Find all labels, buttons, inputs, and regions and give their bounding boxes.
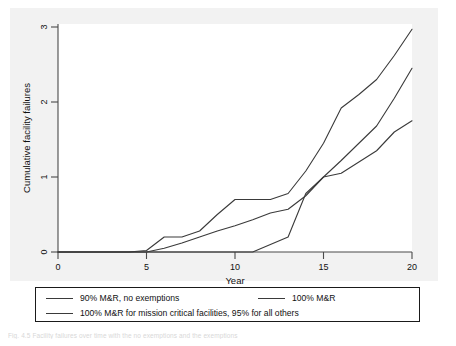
legend-row-2: 100% M&R for mission critical facilities… <box>36 305 419 321</box>
x-tick-label-15: 15 <box>318 262 328 272</box>
y-tick-label-3: 3 <box>39 24 49 29</box>
line-chart: 0 1 2 3 Cumulative facility failures 0 5… <box>0 0 456 290</box>
legend-label-1: 100% M&R <box>292 290 335 306</box>
plot-area-background <box>58 24 412 252</box>
figure-container: 0 1 2 3 Cumulative facility failures 0 5… <box>0 0 456 346</box>
legend-entry-2: 100% M&R for mission critical facilities… <box>46 305 299 321</box>
legend-line-swatch-icon <box>46 313 73 314</box>
legend-label-2: 100% M&R for mission critical facilities… <box>80 305 299 321</box>
legend-row-1: 90% M&R, no exemptions 100% M&R <box>36 290 419 306</box>
legend: 90% M&R, no exemptions 100% M&R 100% M&R… <box>35 287 420 322</box>
x-tick-label-5: 5 <box>144 262 149 272</box>
legend-line-swatch-icon <box>46 298 73 299</box>
y-axis-title: Cumulative facility failures <box>21 83 32 193</box>
y-tick-label-2: 2 <box>39 99 49 104</box>
x-tick-label-0: 0 <box>55 262 60 272</box>
y-axis-ticks <box>51 27 58 252</box>
legend-entry-0: 90% M&R, no exemptions <box>46 290 179 306</box>
legend-label-0: 90% M&R, no exemptions <box>80 290 179 306</box>
x-tick-label-20: 20 <box>407 262 417 272</box>
legend-entry-1: 100% M&R <box>258 290 335 306</box>
y-tick-label-0: 0 <box>39 249 49 254</box>
y-tick-label-1: 1 <box>39 174 49 179</box>
x-axis-title: Year <box>225 275 244 286</box>
figure-caption: Fig. 4.5 Facility failures over time wit… <box>8 332 448 339</box>
legend-line-swatch-icon <box>258 298 285 299</box>
x-tick-label-10: 10 <box>230 262 240 272</box>
x-axis-ticks <box>58 252 412 259</box>
